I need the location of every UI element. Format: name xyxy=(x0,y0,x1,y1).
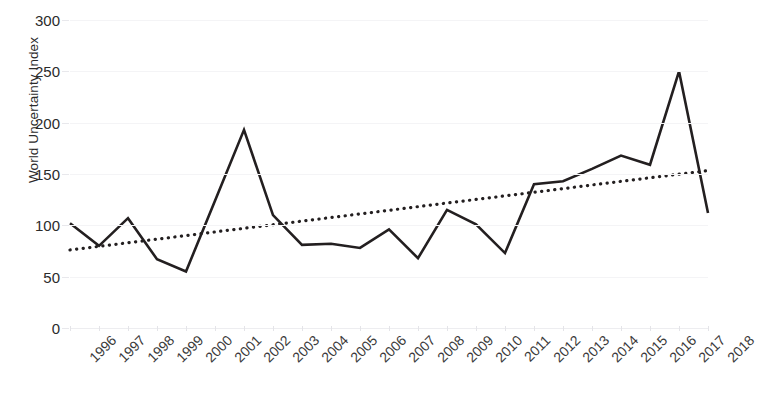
x-tick-mark xyxy=(99,326,100,331)
gridline xyxy=(70,20,708,21)
y-tick-mark xyxy=(62,328,69,329)
trendline-series xyxy=(70,171,708,250)
x-tick-label: 1997 xyxy=(115,332,148,365)
x-tick-mark xyxy=(273,326,274,331)
gridline xyxy=(70,225,708,226)
x-tick-mark xyxy=(476,326,477,331)
x-tick-mark xyxy=(215,326,216,331)
x-tick-mark xyxy=(128,326,129,331)
x-tick-label: 2008 xyxy=(434,332,467,365)
x-tick-label: 2016 xyxy=(666,332,699,365)
x-tick-mark xyxy=(302,326,303,331)
y-tick-mark xyxy=(62,225,69,226)
x-tick-label: 2018 xyxy=(724,332,757,365)
x-tick-label: 1998 xyxy=(144,332,177,365)
x-tick-label: 1999 xyxy=(173,332,206,365)
y-axis-tick-labels: 050100150200250300 xyxy=(24,0,60,401)
x-tick-label: 2013 xyxy=(579,332,612,365)
y-tick-label: 200 xyxy=(24,114,60,131)
x-tick-label: 2017 xyxy=(695,332,728,365)
x-tick-label: 2011 xyxy=(521,332,554,365)
gridline xyxy=(70,174,708,175)
y-tick-label: 150 xyxy=(24,166,60,183)
x-tick-mark xyxy=(418,326,419,331)
x-tick-label: 2006 xyxy=(376,332,409,365)
x-tick-mark xyxy=(563,326,564,331)
x-tick-mark xyxy=(679,326,680,331)
x-tick-mark xyxy=(360,326,361,331)
x-tick-mark xyxy=(447,326,448,331)
x-tick-mark xyxy=(244,326,245,331)
x-tick-label: 2002 xyxy=(260,332,293,365)
x-tick-label: 2001 xyxy=(231,332,264,365)
x-axis-tick-labels: 1996199719981999200020012002200320042005… xyxy=(70,332,708,400)
gridline xyxy=(70,123,708,124)
x-tick-mark xyxy=(534,326,535,331)
y-tick-mark xyxy=(62,277,69,278)
x-tick-label: 2000 xyxy=(202,332,235,365)
x-tick-label: 2004 xyxy=(318,332,351,365)
x-tick-mark xyxy=(70,326,71,331)
y-tick-label: 0 xyxy=(24,320,60,337)
x-tick-label: 2010 xyxy=(492,332,525,365)
x-tick-mark xyxy=(650,326,651,331)
y-tick-mark xyxy=(62,174,69,175)
x-tick-mark xyxy=(592,326,593,331)
y-tick-label: 100 xyxy=(24,217,60,234)
x-tick-label: 2007 xyxy=(405,332,438,365)
x-tick-mark xyxy=(186,326,187,331)
x-tick-mark xyxy=(708,326,709,331)
x-tick-mark xyxy=(389,326,390,331)
gridline xyxy=(70,71,708,72)
x-tick-label: 2009 xyxy=(463,332,496,365)
wui-line-series xyxy=(70,71,708,271)
x-tick-mark xyxy=(621,326,622,331)
x-tick-mark xyxy=(331,326,332,331)
x-tick-label: 1996 xyxy=(86,332,119,365)
plot-area xyxy=(70,20,708,328)
y-tick-mark xyxy=(62,123,69,124)
x-tick-mark xyxy=(505,326,506,331)
x-tick-mark xyxy=(157,326,158,331)
y-tick-mark xyxy=(62,71,69,72)
y-tick-mark xyxy=(62,20,69,21)
y-tick-label: 250 xyxy=(24,63,60,80)
x-tick-label: 2003 xyxy=(289,332,322,365)
x-tick-label: 2014 xyxy=(608,332,641,365)
x-tick-label: 2015 xyxy=(637,332,670,365)
x-tick-label: 2005 xyxy=(347,332,380,365)
gridline xyxy=(70,277,708,278)
y-tick-label: 50 xyxy=(24,268,60,285)
y-tick-label: 300 xyxy=(24,12,60,29)
x-tick-label: 2012 xyxy=(550,332,583,365)
